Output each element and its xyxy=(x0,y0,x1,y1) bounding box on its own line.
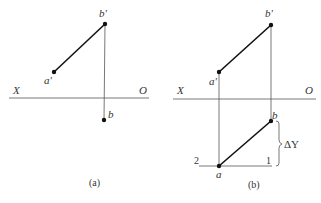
segment-a-prime-b-prime xyxy=(219,25,271,72)
segment-a-b xyxy=(219,121,271,166)
label-b: b xyxy=(108,108,114,120)
point-a-prime xyxy=(52,70,56,74)
delta-y-brace xyxy=(276,121,282,166)
segment-a-prime-b-prime xyxy=(54,24,105,72)
panel-b: a' b' b a X O 2 1 ΔY (b) xyxy=(173,7,316,191)
caption-a: (a) xyxy=(89,177,100,189)
marker-1: 1 xyxy=(266,155,271,166)
label-b-prime: b' xyxy=(265,7,274,19)
label-b-prime: b' xyxy=(99,7,108,19)
label-a-prime: a' xyxy=(209,75,218,87)
label-b: b xyxy=(272,109,278,121)
panel-a: a' b' b X O (a) xyxy=(9,7,149,189)
label-x: X xyxy=(176,84,185,96)
point-a-prime xyxy=(217,70,221,74)
projection-line-b xyxy=(104,24,105,120)
marker-2: 2 xyxy=(194,155,199,166)
projection-diagram: a' b' b X O (a) a' b' b a X O 2 1 ΔY (b) xyxy=(0,0,321,203)
point-b-prime xyxy=(269,23,273,27)
label-o: O xyxy=(305,84,313,96)
label-a: a xyxy=(216,168,222,180)
label-x: X xyxy=(12,84,21,96)
label-delta-y: ΔY xyxy=(284,138,299,150)
point-b-prime xyxy=(103,22,107,26)
label-o: O xyxy=(139,84,147,96)
point-b xyxy=(102,118,106,122)
label-a-prime: a' xyxy=(44,74,53,86)
caption-b: (b) xyxy=(248,179,260,191)
